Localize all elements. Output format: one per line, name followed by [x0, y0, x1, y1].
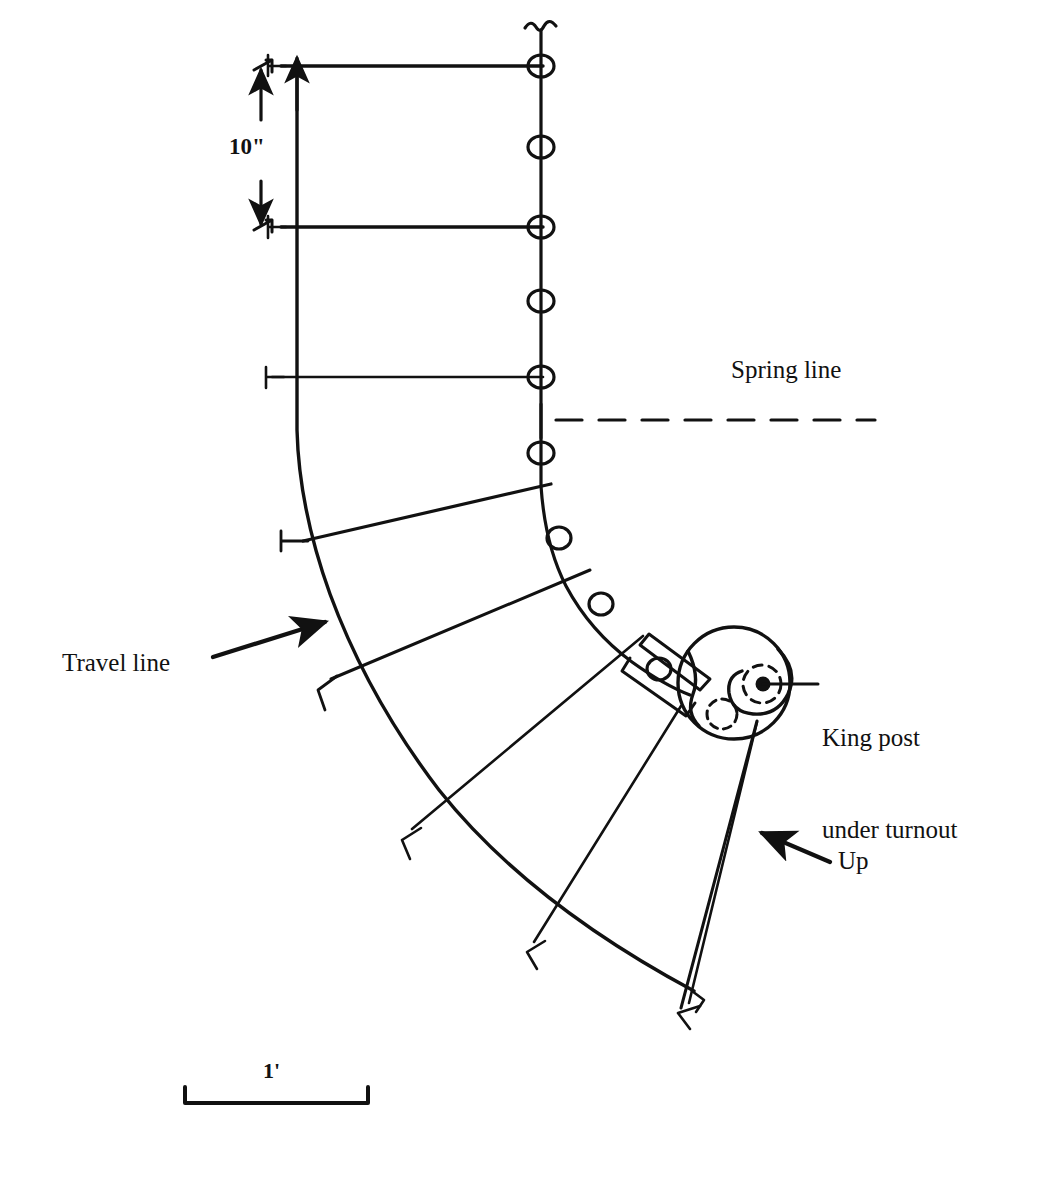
- spring-line-label: Spring line: [731, 355, 841, 386]
- travel-line-label: Travel line: [62, 648, 170, 679]
- break-symbol-icon: [525, 22, 556, 31]
- king-post-label-line2: under turnout: [822, 815, 957, 846]
- baluster-circle-icon: [547, 527, 571, 549]
- winder-tread-line: [331, 570, 590, 679]
- plan-svg: [0, 0, 1049, 1181]
- up-label: Up: [838, 846, 869, 877]
- baluster-circle-icon: [647, 658, 671, 680]
- travel-line-leader-arrow: [213, 622, 325, 657]
- tick-mark-icon: [402, 828, 421, 859]
- scale-bar: [185, 1087, 368, 1103]
- winder-tread-line: [689, 722, 757, 1003]
- spring-line-dashed: [541, 404, 875, 438]
- tick-mark-icon: [281, 531, 308, 551]
- winder-tread-line: [412, 636, 643, 829]
- baluster-circle-icon: [589, 593, 613, 615]
- tick-mark-icon: [318, 676, 337, 710]
- stair-plan-drawing: Spring line Travel line King post under …: [0, 0, 1049, 1181]
- tick-mark-icon: [527, 941, 545, 969]
- tick-mark-icon: [266, 367, 284, 388]
- winder-tread-line: [303, 484, 551, 541]
- scale-bar-label: 1': [263, 1058, 280, 1085]
- up-leader-arrow: [762, 833, 830, 862]
- tread-rise-dimension-label: 10": [229, 133, 265, 161]
- travel-line-curve: [297, 62, 694, 991]
- winder-tread-line: [534, 706, 681, 942]
- inner-stringer-line: [541, 30, 690, 695]
- king-post-label-line1: King post: [822, 723, 957, 754]
